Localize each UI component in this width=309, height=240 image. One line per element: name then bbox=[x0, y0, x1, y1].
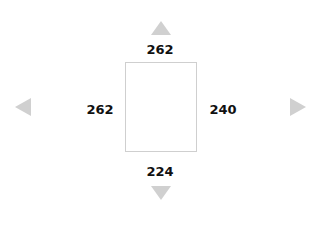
left-value: 262 bbox=[80, 102, 120, 118]
arrow-up-icon[interactable] bbox=[151, 21, 171, 35]
preview-box bbox=[125, 62, 197, 152]
bottom-value: 224 bbox=[140, 164, 180, 180]
top-value: 262 bbox=[140, 42, 180, 58]
arrow-down-icon[interactable] bbox=[151, 186, 171, 200]
arrow-right-icon[interactable] bbox=[290, 98, 306, 116]
arrow-left-icon[interactable] bbox=[15, 98, 31, 116]
right-value: 240 bbox=[203, 102, 243, 118]
